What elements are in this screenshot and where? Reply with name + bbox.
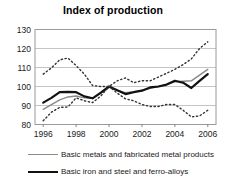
- series-line-0: [43, 69, 208, 109]
- svg-text:130: 130: [17, 25, 31, 35]
- svg-text:2004: 2004: [165, 129, 184, 139]
- gridlines: [35, 49, 216, 106]
- production-index-chart: Index of production 8090100110120130 199…: [0, 0, 226, 183]
- chart-plot-area: 8090100110120130 19961998200020022004200…: [0, 0, 226, 146]
- svg-text:2006: 2006: [198, 129, 217, 139]
- svg-text:110: 110: [17, 63, 31, 73]
- plot-frame: [35, 30, 216, 125]
- legend-item-basic-metals: Basic metals and fabricated metal produc…: [0, 146, 226, 163]
- y-axis-tick-labels: 8090100110120130: [17, 25, 31, 130]
- chart-legend: Basic metals and fabricated metal produc…: [0, 146, 226, 180]
- legend-swatch-black-line: [28, 171, 58, 173]
- svg-text:2000: 2000: [100, 129, 119, 139]
- data-series-group: [43, 42, 208, 121]
- svg-text:100: 100: [17, 82, 31, 92]
- svg-text:90: 90: [22, 101, 32, 111]
- legend-swatch-gray-line: [28, 154, 58, 155]
- legend-label-basic-metals: Basic metals and fabricated metal produc…: [61, 151, 214, 159]
- legend-label-basic-iron-steel: Basic iron and steel and ferro-alloys: [61, 168, 188, 176]
- svg-text:1998: 1998: [67, 129, 86, 139]
- legend-item-basic-iron-steel: Basic iron and steel and ferro-alloys: [0, 163, 226, 180]
- x-axis-tick-labels: 199619982000200220042006: [34, 129, 218, 139]
- svg-text:120: 120: [17, 44, 31, 54]
- svg-text:1996: 1996: [34, 129, 53, 139]
- svg-text:2002: 2002: [132, 129, 151, 139]
- svg-text:80: 80: [22, 120, 32, 130]
